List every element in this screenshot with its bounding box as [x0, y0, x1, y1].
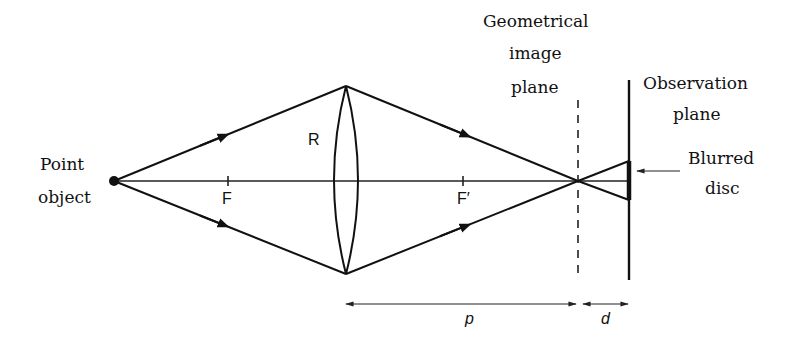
observation-plane-label-line1: Observation — [643, 73, 748, 93]
defocus-ray-diagram: Point object F R F′ Geometrical image pl… — [0, 0, 790, 345]
blurred-disc-label-line2: disc — [705, 178, 740, 198]
arrow-icon — [440, 226, 466, 236]
geometrical-image-plane-label-line3: plane — [511, 77, 558, 97]
lens — [334, 86, 358, 274]
arrow-icon — [200, 216, 224, 226]
ray-image-to-blur-bottom — [578, 181, 629, 200]
focal-point-F-prime-label: F′ — [457, 190, 470, 207]
lens-radius-label: R — [308, 131, 320, 148]
arrow-icon — [440, 125, 466, 136]
arrow-icon — [200, 136, 224, 146]
geometrical-image-plane-label-line1: Geometrical — [483, 11, 589, 31]
observation-plane-label-line2: plane — [673, 104, 720, 124]
point-object-label-line1: Point — [40, 154, 84, 174]
ray-image-to-blur-top — [578, 161, 629, 181]
dimension-p-label: p — [464, 310, 474, 327]
blurred-disc-label-line1: Blurred — [688, 148, 754, 168]
geometrical-image-plane-label-line2: image — [509, 43, 562, 63]
point-object-label-line2: object — [38, 187, 91, 207]
focal-point-F-label: F — [222, 190, 232, 207]
dimension-d-label: d — [601, 310, 611, 327]
